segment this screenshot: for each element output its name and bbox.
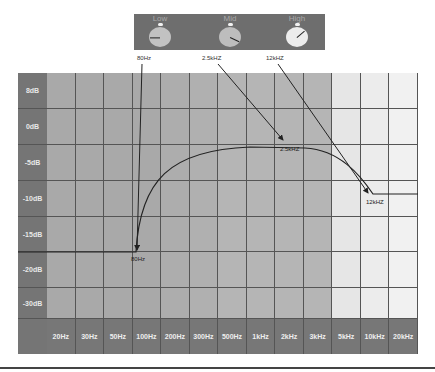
grid-cell [104, 109, 133, 145]
grid-cell [361, 252, 390, 288]
grid-cell [361, 145, 390, 181]
grid-cell [218, 109, 247, 145]
grid-cell [389, 109, 418, 145]
mid-knob-label: Mid [210, 14, 250, 23]
grid-cell [361, 73, 390, 109]
grid-cell [104, 217, 133, 252]
grid-cell [76, 252, 105, 288]
grid-cell [361, 217, 390, 252]
grid-cell [133, 145, 162, 181]
grid-cell [47, 288, 76, 319]
grid-cell [76, 217, 105, 252]
grid-cell [275, 109, 304, 145]
high-freq-label: 12kHZ [266, 55, 284, 61]
x-axis-label: 5kHz [332, 319, 361, 354]
grid-cell [389, 288, 418, 319]
grid-cell [247, 145, 276, 181]
grid-cell [104, 145, 133, 181]
grid-cell [190, 73, 219, 109]
eq-frequency-grid: 8dB0dB-5dB-10dB-15dB-20dB-30dB20Hz30Hz50… [18, 73, 418, 354]
grid-cell [247, 109, 276, 145]
y-axis-label: 0dB [18, 109, 47, 145]
grid-cell [133, 181, 162, 217]
low-knob-label: Low [140, 14, 180, 23]
x-axis-label: 300Hz [190, 319, 219, 354]
grid-cell [47, 252, 76, 288]
knob-needle [297, 31, 306, 38]
annotation-2-5khz: 2.5kHZ [280, 146, 299, 152]
grid-cell [190, 217, 219, 252]
x-axis-label: 200Hz [161, 319, 190, 354]
grid-cell [104, 73, 133, 109]
grid-cell [275, 217, 304, 252]
mid-knob[interactable] [219, 27, 241, 47]
grid-cell [218, 181, 247, 217]
high-indicator-dot [295, 23, 300, 26]
grid-cell [161, 252, 190, 288]
grid-cell [47, 181, 76, 217]
grid-cell [247, 73, 276, 109]
y-axis-label: -10dB [18, 181, 47, 217]
grid-cell [133, 73, 162, 109]
grid-cell [332, 181, 361, 217]
grid-cell [190, 109, 219, 145]
annotation-12khz: 12kHZ [366, 199, 384, 205]
y-axis-label: -30dB [18, 288, 47, 319]
grid-cell [47, 73, 76, 109]
grid-cell [47, 145, 76, 181]
mid-knob-group: Mid [210, 14, 250, 50]
grid-cell [389, 217, 418, 252]
y-axis-label: 8dB [18, 73, 47, 109]
grid-cell [133, 288, 162, 319]
grid-cell [332, 145, 361, 181]
low-knob-group: Low [140, 14, 180, 50]
x-axis-label: 10kHz [361, 319, 390, 354]
grid-cell [247, 181, 276, 217]
grid-cell [190, 181, 219, 217]
y-axis-label: -15dB [18, 217, 47, 252]
grid-cell [247, 288, 276, 319]
high-knob[interactable] [286, 27, 308, 47]
knob-needle [150, 37, 160, 38]
grid-cell [76, 288, 105, 319]
x-axis-label: 30Hz [76, 319, 105, 354]
grid-cell [304, 73, 333, 109]
grid-cell [275, 73, 304, 109]
grid-cell [133, 217, 162, 252]
grid-cell [332, 73, 361, 109]
grid-cell [389, 73, 418, 109]
grid-cell [161, 109, 190, 145]
grid-cell [76, 109, 105, 145]
grid-cell [304, 288, 333, 319]
x-axis-label: 3kHz [304, 319, 333, 354]
grid-cell [332, 288, 361, 319]
low-indicator-dot [158, 23, 163, 26]
x-axis-label: 1kHz [247, 319, 276, 354]
x-axis-label: 20kHz [389, 319, 418, 354]
grid-cell [304, 217, 333, 252]
grid-cell [332, 252, 361, 288]
high-knob-label: High [277, 14, 317, 23]
grid-cell [104, 252, 133, 288]
bottom-divider [0, 367, 435, 369]
grid-cell [218, 145, 247, 181]
low-knob[interactable] [149, 27, 171, 47]
grid-cell [161, 288, 190, 319]
eq-knob-panel: Low Mid High [134, 14, 325, 50]
axis-corner [18, 319, 47, 354]
grid-cell [190, 145, 219, 181]
grid-cell [47, 109, 76, 145]
grid-cell [161, 145, 190, 181]
grid-cell [218, 252, 247, 288]
low-freq-label: 80Hz [137, 55, 151, 61]
mid-indicator-dot [228, 23, 233, 26]
grid-cell [332, 109, 361, 145]
grid-cell [104, 288, 133, 319]
grid-cell [133, 109, 162, 145]
x-axis-label: 500Hz [218, 319, 247, 354]
grid-cell [76, 145, 105, 181]
grid-cell [247, 217, 276, 252]
grid-cell [275, 181, 304, 217]
grid-cell [389, 252, 418, 288]
grid-cell [47, 217, 76, 252]
